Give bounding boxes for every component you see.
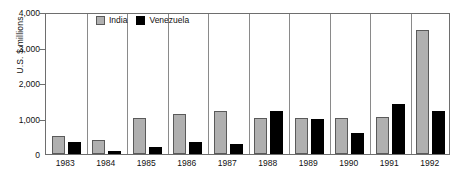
x-axis-tick-label: 1985 [126, 158, 167, 168]
y-axis-tick-label: 2,000 [10, 80, 40, 89]
bar-india-1990 [335, 118, 348, 154]
y-axis-tick-mark [39, 84, 46, 85]
legend-swatch-india-icon [96, 16, 105, 25]
x-axis-tick-label: 1986 [167, 158, 208, 168]
x-axis-tick-label: 1984 [86, 158, 127, 168]
y-axis-tick-label: 1,000 [10, 116, 40, 125]
y-axis-tick-labels: 01,0002,0003,0004,000 [8, 0, 40, 187]
bar-india-1992 [416, 30, 429, 154]
y-axis-tick-label: 4,000 [10, 9, 40, 18]
group-separator-line [411, 14, 412, 154]
group-separator-line [330, 14, 331, 154]
group-separator-line [249, 14, 250, 154]
x-axis-tick-label: 1992 [410, 158, 451, 168]
bar-venezuela-1990 [351, 133, 364, 154]
x-axis-tick-label: 1990 [329, 158, 370, 168]
bar-india-1989 [295, 118, 308, 154]
legend-label: India [109, 16, 127, 25]
bar-venezuela-1984 [108, 151, 121, 154]
x-axis-tick-label: 1987 [207, 158, 248, 168]
plot-area [45, 13, 450, 155]
y-axis-tick-mark [39, 120, 46, 121]
bar-india-1988 [254, 118, 267, 154]
bar-india-1985 [133, 118, 146, 154]
group-separator-line [208, 14, 209, 154]
bar-venezuela-1987 [230, 144, 243, 154]
bar-venezuela-1989 [311, 119, 324, 155]
bar-chart: U.S. $ millions 01,0002,0003,0004,000 19… [0, 0, 456, 187]
bar-venezuela-1985 [149, 147, 162, 154]
group-separator-line [168, 14, 169, 154]
bar-venezuela-1986 [189, 142, 202, 154]
x-axis-tick-labels: 1983198419851986198719881989199019911992 [45, 158, 450, 174]
x-axis-tick-label: 1983 [45, 158, 86, 168]
legend-swatch-venezuela-icon [136, 16, 145, 25]
bar-venezuela-1983 [68, 142, 81, 154]
group-separator-line [127, 14, 128, 154]
bar-india-1986 [173, 114, 186, 154]
bar-india-1984 [92, 140, 105, 154]
x-axis-tick-label: 1991 [369, 158, 410, 168]
y-axis-tick-mark [39, 49, 46, 50]
chart-legend: IndiaVenezuela [96, 16, 189, 25]
bar-india-1987 [214, 111, 227, 154]
bar-india-1983 [52, 136, 65, 154]
y-axis-tick-mark [39, 13, 46, 14]
y-axis-tick-label: 0 [10, 151, 40, 160]
bar-venezuela-1988 [270, 111, 283, 154]
group-separator-line [87, 14, 88, 154]
bar-india-1991 [376, 117, 389, 154]
legend-label: Venezuela [149, 16, 189, 25]
legend-entry-venezuela: Venezuela [136, 16, 189, 25]
bar-venezuela-1991 [392, 104, 405, 154]
legend-entry-india: India [96, 16, 127, 25]
y-axis-tick-label: 3,000 [10, 45, 40, 54]
group-separator-line [289, 14, 290, 154]
group-separator-line [370, 14, 371, 154]
x-axis-tick-label: 1989 [288, 158, 329, 168]
bar-venezuela-1992 [432, 111, 445, 154]
x-axis-tick-label: 1988 [248, 158, 289, 168]
